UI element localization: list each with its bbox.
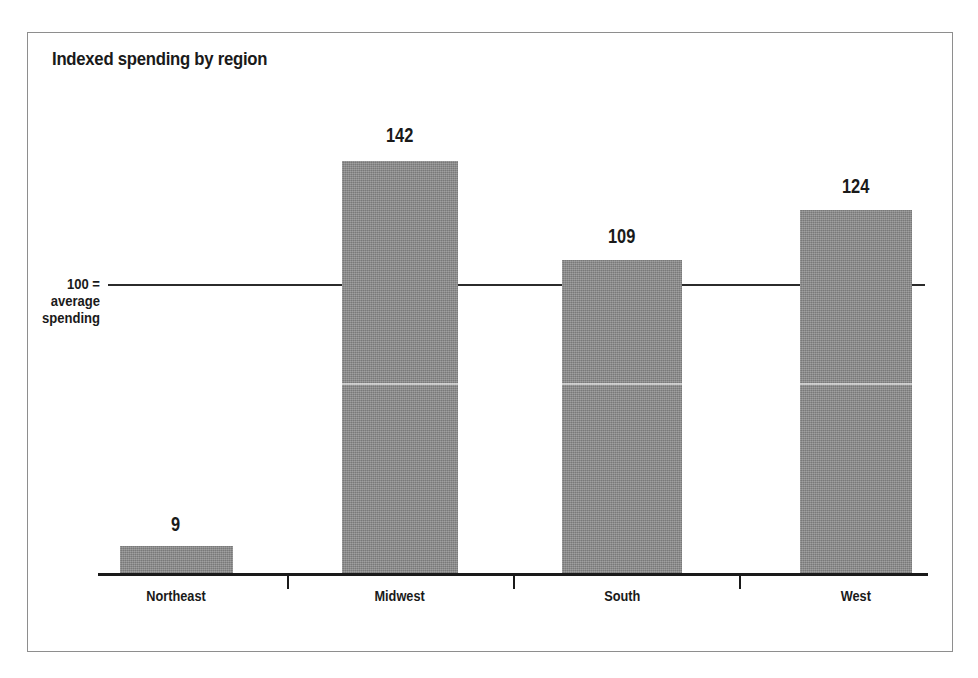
chart-frame <box>27 32 953 652</box>
chart-page: Indexed spending by region 100 = average… <box>0 0 978 678</box>
page-title: Indexed spending by region <box>52 48 267 70</box>
